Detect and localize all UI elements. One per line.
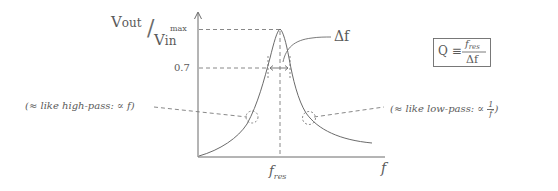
- y-axis-label-denominator-sub: in: [165, 34, 177, 48]
- left-annotation-leader: [154, 107, 247, 117]
- y-tick-0-7: 0.7: [174, 63, 190, 73]
- q-definition-lhs: Q ≡: [438, 45, 462, 57]
- y-axis-label: Vout / Vin: [111, 15, 181, 55]
- y-axis-label-denominator: V: [154, 31, 165, 49]
- y-axis-label-numerator-sub: out: [122, 16, 142, 30]
- y-axis-label-numerator: V: [111, 13, 122, 31]
- guide-lines: [154, 30, 384, 157]
- y-tick-max: max: [170, 25, 187, 33]
- x-tick-fres-sub: res: [274, 172, 287, 181]
- high-pass-annotation: (≈ like high-pass: ∝ f): [25, 101, 135, 111]
- bandwidth-label: Δf: [334, 29, 349, 43]
- resonance-diagram: Vout / Vin max 0.7 fres f Δf Q ≡ fres Δf…: [0, 0, 558, 191]
- x-axis-label: f: [381, 161, 386, 175]
- axes: [195, 12, 386, 157]
- q-definition-numerator: fres: [465, 39, 480, 51]
- right-annotation-leader: [314, 107, 384, 117]
- bandwidth-leader: [283, 37, 331, 62]
- low-pass-annotation: (≈ like low-pass: ∝ 1f): [390, 101, 498, 118]
- resonance-curve: [199, 29, 372, 156]
- skirt-highlights: [246, 111, 316, 125]
- q-definition-denominator: Δf: [466, 54, 478, 65]
- x-tick-fres: fres: [269, 164, 286, 181]
- bandwidth-arrow-icon: [270, 66, 288, 71]
- low-pass-region-circle: [303, 112, 316, 125]
